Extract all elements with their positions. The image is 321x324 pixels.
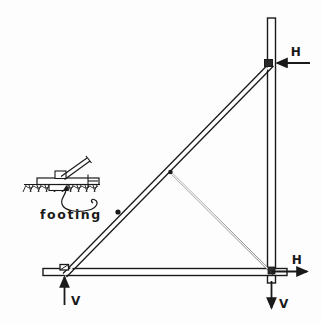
force-label-v-right: V xyxy=(279,297,289,311)
mid-joint-node xyxy=(168,170,172,174)
bottom-chord-member xyxy=(43,269,287,276)
vertical-mast-member xyxy=(268,18,276,283)
diagonal-node-marker xyxy=(115,209,120,214)
force-label-v-left: V xyxy=(71,294,81,308)
force-label-h-top: H xyxy=(291,45,302,59)
joint-bottom-left xyxy=(60,265,69,271)
footing-label: footing xyxy=(40,207,102,222)
joint-bottom-right xyxy=(268,267,275,274)
joint-apex xyxy=(265,60,273,67)
force-label-h-bottom: H xyxy=(292,253,303,267)
truss-diagram-figure: H H V V xyxy=(0,0,321,324)
diagram-canvas: H H V V xyxy=(0,0,321,324)
